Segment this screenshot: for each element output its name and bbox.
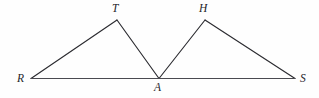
edge-R-T: [31, 20, 117, 79]
vertex-label-R: R: [17, 73, 24, 85]
vertex-label-H: H: [199, 3, 207, 15]
vertex-label-T: T: [112, 3, 118, 15]
edge-A-H: [159, 20, 205, 79]
geometry-figure: R T A H S: [0, 0, 319, 98]
edge-H-S: [205, 20, 295, 79]
vertex-label-A: A: [154, 82, 161, 94]
vertex-label-S: S: [300, 73, 306, 85]
edge-T-A: [117, 20, 159, 79]
